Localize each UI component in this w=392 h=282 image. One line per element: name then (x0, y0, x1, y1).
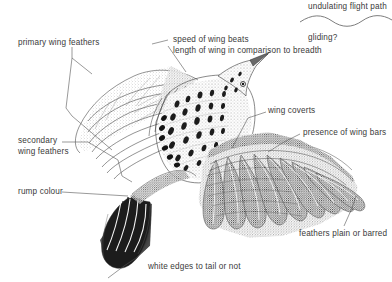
bird-diagram-figure: primary wing feathers secondary wing fea… (0, 0, 392, 282)
label-speed-of-wing-beats: speed of wing beats (173, 35, 249, 46)
label-white-edges-to-tail: white edges to tail or not (148, 262, 241, 273)
label-undulating-flight-path: undulating flight path (308, 2, 387, 13)
label-wing-coverts: wing coverts (268, 106, 315, 117)
label-length-of-wing: length of wing in comparison to breadth (173, 46, 322, 57)
label-primary-wing-feathers: primary wing feathers (18, 38, 99, 49)
label-feathers-plain-or-barred: feathers plain or barred (299, 229, 387, 240)
label-secondary-wing-feathers-line2: wing feathers (18, 147, 69, 158)
label-presence-of-wing-bars: presence of wing bars (303, 128, 386, 139)
label-rump-colour: rump colour (18, 187, 63, 198)
label-secondary-wing-feathers-line1: secondary (18, 136, 57, 147)
undulating-flight-path-curve (300, 16, 392, 27)
label-gliding: gliding? (308, 33, 337, 44)
